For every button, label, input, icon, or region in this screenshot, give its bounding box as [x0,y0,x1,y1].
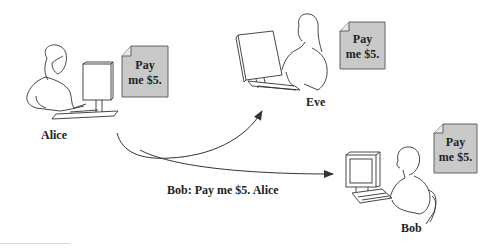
bob-note-line2: me $5. [434,150,477,165]
eve-computer-icon [236,14,327,90]
diagram-canvas [0,0,499,248]
divider [0,243,70,244]
alice-note: Pay me $5. [122,46,168,97]
alice-note-line1: Pay [122,58,168,73]
bob-computer-icon [346,147,436,224]
arrow-alice-to-eve [117,111,262,158]
alice-label: Alice [41,128,67,143]
eve-note: Pay me $5. [340,22,385,69]
alice-note-line2: me $5. [122,73,168,88]
bob-note: Pay me $5. [434,124,477,173]
arrow-alice-to-bob [140,150,333,174]
eve-note-line1: Pay [340,32,385,47]
eve-note-line2: me $5. [340,47,385,62]
bob-label: Bob [401,221,422,236]
eve-label: Eve [306,95,325,110]
message-label: Bob: Pay me $5. Alice [167,183,279,198]
alice-computer-icon [27,45,118,119]
bob-note-line1: Pay [434,135,477,150]
